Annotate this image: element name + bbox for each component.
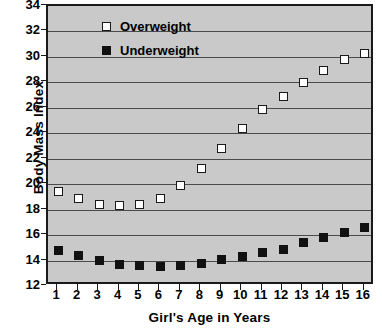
x-axis-tick	[199, 284, 200, 290]
data-point	[340, 228, 349, 237]
y-axis-tick-label: 30	[2, 48, 40, 61]
gridline	[48, 82, 371, 83]
data-point	[176, 261, 185, 270]
gridline	[48, 108, 371, 109]
y-axis-tick-label: 20	[2, 176, 40, 189]
data-point	[135, 261, 144, 270]
data-point	[176, 181, 185, 190]
data-point	[54, 187, 63, 196]
y-axis-tick-label: 32	[2, 23, 40, 36]
y-axis-tick-label: 34	[2, 0, 40, 11]
y-axis-tick-label: 18	[2, 201, 40, 214]
x-axis-tick	[240, 284, 241, 290]
legend-label-overweight: Overweight	[120, 19, 191, 34]
data-point	[238, 252, 247, 261]
data-point	[360, 49, 369, 58]
legend-item-underweight: Underweight	[102, 38, 252, 62]
data-point	[340, 55, 349, 64]
filled-square-icon	[102, 46, 111, 55]
y-axis-tick-label: 16	[2, 227, 40, 240]
x-axis-tick	[77, 284, 78, 290]
gridline	[48, 159, 371, 160]
gridline	[48, 184, 371, 185]
legend-item-overweight: Overweight	[102, 14, 252, 38]
y-axis-tick	[41, 284, 46, 285]
gridline	[48, 210, 371, 211]
data-point	[319, 66, 328, 75]
data-point	[217, 255, 226, 264]
data-point	[115, 260, 124, 269]
x-axis-tick	[118, 284, 119, 290]
x-axis-tick	[322, 284, 323, 290]
data-point	[156, 194, 165, 203]
y-axis-tick-label: 22	[2, 150, 40, 163]
x-axis-tick	[158, 284, 159, 290]
x-axis-tick	[301, 284, 302, 290]
y-axis-tick-label: 24	[2, 125, 40, 138]
data-point	[115, 201, 124, 210]
x-axis-title: Girl's Age in Years	[46, 310, 373, 325]
data-point	[95, 200, 104, 209]
data-point	[279, 245, 288, 254]
data-point	[299, 238, 308, 247]
data-point	[217, 144, 226, 153]
data-point	[319, 233, 328, 242]
data-point	[258, 105, 267, 114]
x-axis-tick	[179, 284, 180, 290]
x-axis-tick	[97, 284, 98, 290]
x-axis-tick	[138, 284, 139, 290]
x-axis-tick	[342, 284, 343, 290]
y-axis-tick-label: 28	[2, 74, 40, 87]
open-square-icon	[102, 22, 111, 31]
data-point	[258, 248, 267, 257]
gridline	[48, 133, 371, 134]
x-axis-tick	[261, 284, 262, 290]
x-axis-tick	[363, 284, 364, 290]
data-point	[74, 194, 83, 203]
data-point	[238, 124, 247, 133]
x-axis-tick	[56, 284, 57, 290]
x-axis-tick	[281, 284, 282, 290]
data-point	[54, 246, 63, 255]
legend-label-underweight: Underweight	[120, 43, 199, 58]
x-axis-tick	[220, 284, 221, 290]
y-axis-tick-label: 14	[2, 252, 40, 265]
data-point	[299, 78, 308, 87]
y-axis-tick-label: 26	[2, 99, 40, 112]
plot-area: Overweight Underweight	[46, 4, 373, 284]
data-point	[197, 164, 206, 173]
data-point	[360, 223, 369, 232]
y-axis-tick-label: 12	[2, 278, 40, 291]
chart-legend: Overweight Underweight	[102, 14, 252, 62]
data-point	[95, 256, 104, 265]
data-point	[74, 251, 83, 260]
data-point	[135, 200, 144, 209]
data-point	[197, 259, 206, 268]
data-point	[279, 92, 288, 101]
data-point	[156, 262, 165, 271]
bmi-chart-figure: Body Mass Index 121416182022242628303234…	[0, 0, 382, 329]
